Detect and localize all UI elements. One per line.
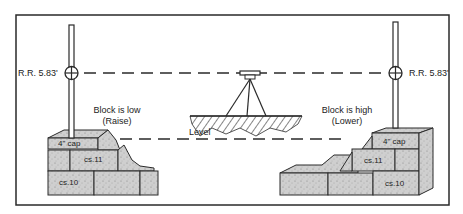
right-rod-reading: R.R. 5.83' [409,68,449,78]
right-note-line1: Block is high [310,105,384,116]
left-cap-label: 4" cap [58,139,80,148]
right-note-line2: (Lower) [310,116,384,127]
left-leveling-rod [65,25,78,138]
left-rod-reading: R.R. 5.83' [18,68,58,78]
level-label: Level [189,127,211,137]
right-course-10-label: cs.10 [385,179,404,188]
right-course-11-label: cs.11 [364,156,383,165]
left-course-11-label: cs.11 [84,155,103,164]
left-note: Block is low (Raise) [82,105,152,127]
right-note: Block is high (Lower) [310,105,384,127]
left-note-line1: Block is low [82,105,152,116]
right-leveling-rod [389,22,402,128]
left-note-line2: (Raise) [82,116,152,127]
left-course-10-label: cs.10 [59,178,78,187]
right-block-wall [280,128,433,195]
right-cap-label: 4" cap [383,137,405,146]
